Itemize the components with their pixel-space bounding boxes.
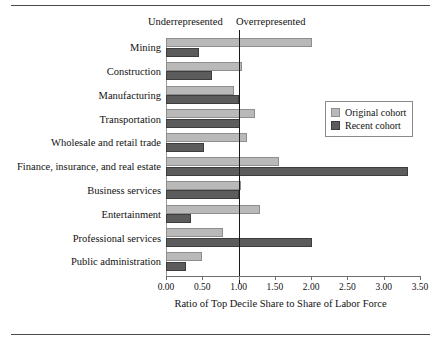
bar-original	[166, 252, 202, 261]
bar-recent	[166, 71, 212, 80]
x-tick-label: 0.50	[194, 282, 211, 292]
category-label: Mining	[6, 42, 161, 53]
bar-recent	[166, 167, 408, 176]
bar-recent	[166, 262, 186, 271]
x-tick	[166, 276, 167, 280]
category-label: Entertainment	[6, 208, 161, 219]
bar-recent	[166, 48, 199, 57]
legend-item-original[interactable]: Original cohort	[331, 106, 406, 119]
bar-original	[166, 62, 242, 71]
bar-recent	[166, 95, 239, 104]
x-tick	[202, 276, 203, 280]
x-tick	[239, 276, 240, 280]
category-label: Finance, insurance, and real estate	[6, 161, 161, 172]
bar-recent	[166, 214, 191, 223]
bar-recent	[166, 143, 204, 152]
x-tick-label: 1.00	[230, 282, 247, 292]
bar-original	[166, 86, 234, 95]
category-label: Business services	[6, 185, 161, 196]
x-tick-label: 2.50	[339, 282, 356, 292]
x-tick	[384, 276, 385, 280]
x-axis-title: Ratio of Top Decile Share to Share of La…	[0, 298, 441, 309]
chart-figure: Underrepresented Overrepresented MiningC…	[0, 0, 441, 340]
category-label: Professional services	[6, 232, 161, 243]
x-tick	[420, 276, 421, 280]
x-tick-label: 2.00	[303, 282, 320, 292]
x-tick-label: 1.50	[267, 282, 284, 292]
legend-label-original: Original cohort	[345, 107, 406, 118]
overrepresented-label: Overrepresented	[236, 16, 305, 27]
reference-line	[239, 30, 240, 284]
x-tick	[347, 276, 348, 280]
legend-label-recent: Recent cohort	[345, 120, 401, 131]
category-label: Manufacturing	[6, 89, 161, 100]
category-label: Wholesale and retail trade	[6, 137, 161, 148]
x-axis-line	[166, 276, 420, 277]
bar-original	[166, 133, 247, 142]
x-tick-label: 3.00	[375, 282, 392, 292]
x-tick-label: 3.50	[412, 282, 429, 292]
category-axis-labels: MiningConstructionManufacturingTransport…	[3, 0, 161, 340]
x-tick	[311, 276, 312, 280]
category-label: Transportation	[6, 113, 161, 124]
bar-original	[166, 181, 241, 190]
x-tick-label: 0.00	[158, 282, 175, 292]
bar-recent	[166, 119, 240, 128]
bar-original	[166, 228, 223, 237]
category-label: Public administration	[6, 256, 161, 267]
bar-original	[166, 157, 279, 166]
x-tick	[275, 276, 276, 280]
bar-original	[166, 109, 255, 118]
legend-item-recent[interactable]: Recent cohort	[331, 119, 406, 132]
chart-legend: Original cohort Recent cohort	[325, 101, 413, 137]
bar-original	[166, 205, 260, 214]
x-axis-title-text: Ratio of Top Decile Share to Share of La…	[54, 298, 386, 309]
legend-swatch-recent-icon	[331, 121, 340, 130]
legend-swatch-original-icon	[331, 108, 340, 117]
category-label: Construction	[6, 66, 161, 77]
bar-recent	[166, 190, 239, 199]
